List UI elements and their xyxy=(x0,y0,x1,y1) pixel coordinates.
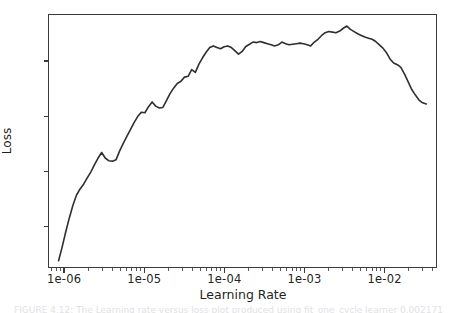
x-tick-minor-mark xyxy=(88,268,89,271)
x-tick-minor-mark xyxy=(126,268,127,271)
x-tick-minor-mark xyxy=(376,268,377,271)
x-tick-minor-mark xyxy=(432,268,433,271)
x-tick-minor-mark xyxy=(206,268,207,271)
loss-curve-line xyxy=(59,26,427,261)
x-tick-minor-mark xyxy=(300,268,301,271)
figure-container: Loss 62646668 1e-061e-051e-041e-031e-02 … xyxy=(0,0,454,313)
x-tick-minor-mark xyxy=(51,268,52,271)
x-tick-minor-mark xyxy=(192,268,193,271)
x-tick-minor-mark xyxy=(131,268,132,271)
x-tick-minor-mark xyxy=(408,268,409,271)
x-tick-minor-mark xyxy=(292,268,293,271)
plot-area xyxy=(48,14,437,268)
x-tick-minor-mark xyxy=(168,268,169,271)
x-tick-minor-mark xyxy=(296,268,297,271)
figure-caption: FIGURE 4.12: The Learning rate versus lo… xyxy=(0,305,454,313)
x-axis-title: Learning Rate xyxy=(200,287,287,302)
x-tick-minor-mark xyxy=(102,268,103,271)
x-tick-label: 1e-02 xyxy=(368,272,402,286)
x-tick-minor-mark xyxy=(136,268,137,271)
loss-curve-svg xyxy=(49,15,438,269)
x-tick-minor-mark xyxy=(120,268,121,271)
x-tick-minor-mark xyxy=(200,268,201,271)
x-tick-minor-mark xyxy=(328,268,329,271)
x-tick-label: 1e-03 xyxy=(287,272,321,286)
x-tick-minor-mark xyxy=(422,268,423,271)
x-tick-label: 1e-06 xyxy=(47,272,81,286)
x-tick-minor-mark xyxy=(262,268,263,271)
x-tick-minor-mark xyxy=(352,268,353,271)
x-tick-minor-mark xyxy=(60,268,61,271)
x-tick-minor-mark xyxy=(216,268,217,271)
x-tick-label: 1e-05 xyxy=(127,272,161,286)
x-tick-minor-mark xyxy=(140,268,141,271)
x-tick-label: 1e-04 xyxy=(207,272,241,286)
x-tick-minor-mark xyxy=(56,268,57,271)
x-tick-minor-mark xyxy=(220,268,221,271)
x-tick-minor-mark xyxy=(248,268,249,271)
x-tick-minor-mark xyxy=(280,268,281,271)
x-tick-minor-mark xyxy=(272,268,273,271)
x-tick-minor-mark xyxy=(286,268,287,271)
x-tick-minor-mark xyxy=(342,268,343,271)
y-axis-title: Loss xyxy=(0,128,14,154)
x-tick-minor-mark xyxy=(380,268,381,271)
x-tick-minor-mark xyxy=(211,268,212,271)
x-tick-minor-mark xyxy=(372,268,373,271)
x-tick-minor-mark xyxy=(360,268,361,271)
x-tick-minor-mark xyxy=(366,268,367,271)
x-tick-minor-mark xyxy=(182,268,183,271)
x-tick-minor-mark xyxy=(112,268,113,271)
